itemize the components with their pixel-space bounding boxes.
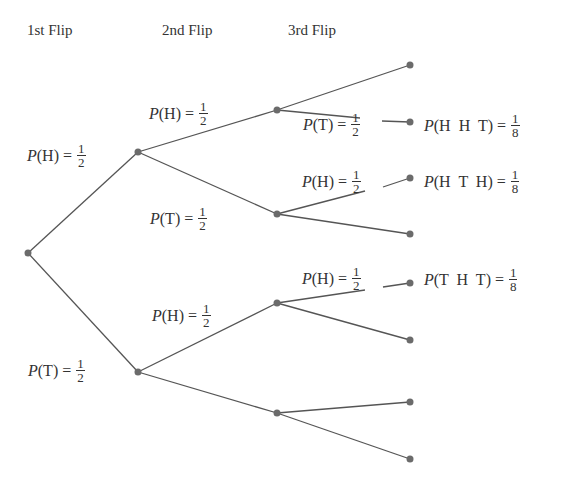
node-HT (274, 211, 281, 218)
node-HHH (407, 62, 414, 69)
node-TT (274, 410, 281, 417)
label-2nd-heads-upper: P(H) = 12 (149, 100, 208, 127)
outcome-HTH: P(H T H) = 18 (424, 168, 519, 195)
fraction: 12 (198, 205, 207, 232)
fraction: 18 (509, 266, 518, 293)
tree-diagram (0, 0, 569, 490)
fraction: 12 (76, 357, 85, 384)
node-HTT (407, 231, 414, 238)
label-3rd-tails-HHT: P(T) = 12 (303, 111, 360, 138)
outcome-THT: P(T H T) = 18 (424, 266, 517, 293)
node-HH (274, 107, 281, 114)
node-THT (407, 337, 414, 344)
fraction: 12 (202, 302, 211, 329)
fraction: 12 (77, 142, 86, 169)
node-T (135, 369, 142, 376)
node-HHT (407, 119, 414, 126)
fraction: 18 (511, 168, 520, 195)
fraction: 12 (351, 111, 360, 138)
fraction: 12 (352, 265, 361, 292)
label-3rd-heads-THT: P(H) = 12 (302, 265, 361, 292)
fraction: 12 (352, 168, 361, 195)
label-3rd-heads-HTH: P(H) = 12 (302, 168, 361, 195)
node-HTH (407, 175, 414, 182)
fraction: 18 (511, 112, 520, 139)
node-TTH (407, 399, 414, 406)
label-1st-tails: P(T) = 12 (28, 357, 85, 384)
node-TH (274, 300, 281, 307)
label-2nd-heads-lower: P(H) = 12 (152, 302, 211, 329)
label-2nd-tails-upper: P(T) = 12 (150, 205, 207, 232)
label-1st-heads: P(H) = 12 (27, 142, 86, 169)
outcome-HHT: P(H H T) = 18 (424, 112, 520, 139)
node-H (135, 149, 142, 156)
node-TTT (407, 456, 414, 463)
node-THH (407, 280, 414, 287)
node-root (25, 250, 32, 257)
fraction: 12 (199, 100, 208, 127)
